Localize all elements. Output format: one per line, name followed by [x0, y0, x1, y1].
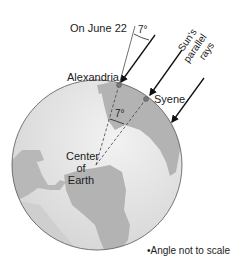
center-label-line3: Earth	[66, 174, 96, 186]
alexandria-label: Alexandria	[67, 71, 119, 83]
center-label-line1: Center	[66, 150, 96, 162]
top-angle-label: 7°	[138, 24, 148, 36]
center-angle-label: 7°	[115, 108, 125, 120]
center-label-line2: of	[66, 162, 96, 174]
footnote: •Angle not to scale	[147, 245, 230, 257]
syene-label: Syene	[154, 93, 185, 105]
sun-rays-label: Sun's parallel rays	[172, 25, 218, 70]
sun-ray-2	[150, 50, 182, 95]
diagram-svg: Sun's parallel rays	[0, 0, 244, 266]
alexandria-vertical-line	[119, 26, 135, 85]
alexandria-dot	[117, 83, 122, 88]
earth-globe	[12, 80, 182, 252]
eratosthenes-diagram: Sun's parallel rays On June 22 7° Alexan…	[0, 0, 244, 266]
center-of-earth-label: Center of Earth	[66, 150, 96, 186]
date-label: On June 22	[70, 22, 127, 34]
syene-dot	[144, 97, 149, 102]
